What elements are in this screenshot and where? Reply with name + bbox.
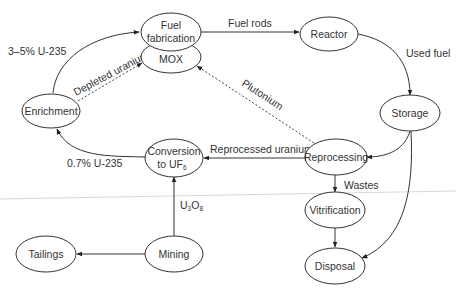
node-label-mox: MOX <box>159 53 183 65</box>
edge-label-plutonium: Plutonium <box>240 77 286 113</box>
node-label-tailings: Tailings <box>28 248 63 260</box>
node-enrichment: Enrichment <box>22 94 80 128</box>
node-label-fuel-fabrication-line1: Fuel <box>161 19 181 31</box>
edge-label-enriched: 3–5% U-235 <box>8 45 67 57</box>
node-storage: Storage <box>380 95 440 131</box>
edge-storage-to-reprocessing <box>367 131 410 157</box>
edge-reactor-to-storage <box>358 34 410 95</box>
node-label-storage: Storage <box>392 107 429 119</box>
node-label-enrichment: Enrichment <box>24 105 77 117</box>
node-label-mining: Mining <box>159 248 190 260</box>
edge-label-used-fuel: Used fuel <box>406 47 450 59</box>
scan-artifact-line <box>0 191 456 199</box>
edge-label-wastes: Wastes <box>344 179 379 191</box>
edge-label-reprocessed-uranium: Reprocessed uranium <box>210 143 313 155</box>
edge-reprocessing-to-mox <box>197 66 314 143</box>
node-label-reprocessing: Reprocessing <box>304 151 368 163</box>
edge-label-depleted-uranium: Depleted uranium <box>71 48 150 98</box>
fuel-cycle-diagram: 3–5% U-235 Depleted uranium Fuel rods Us… <box>0 0 456 298</box>
node-label-fuel-fabrication-line2: fabrication <box>147 32 196 44</box>
node-vitrification: Vitrification <box>305 192 365 228</box>
node-label-conversion-line1: Conversion <box>147 145 200 157</box>
node-label-reactor: Reactor <box>311 28 348 40</box>
node-label-conversion-line2: to UF6 <box>157 158 187 171</box>
node-label-disposal: Disposal <box>315 260 355 272</box>
edge-conversion-to-enrichment <box>57 129 145 157</box>
node-mining: Mining <box>145 236 203 272</box>
node-reactor: Reactor <box>300 17 358 51</box>
node-disposal: Disposal <box>305 248 365 284</box>
node-reprocessing: Reprocessing <box>304 139 368 175</box>
edge-label-natural: 0.7% U-235 <box>67 157 123 169</box>
edge-label-fuel-rods: Fuel rods <box>228 17 272 29</box>
node-fuel-fabrication: Fuel fabrication <box>141 13 201 51</box>
node-tailings: Tailings <box>16 236 76 272</box>
edge-storage-to-disposal <box>362 131 412 258</box>
node-label-vitrification: Vitrification <box>309 204 360 216</box>
node-conversion: Conversion to UF6 <box>145 139 203 177</box>
edge-label-u3o8: U3O8 <box>180 199 203 212</box>
